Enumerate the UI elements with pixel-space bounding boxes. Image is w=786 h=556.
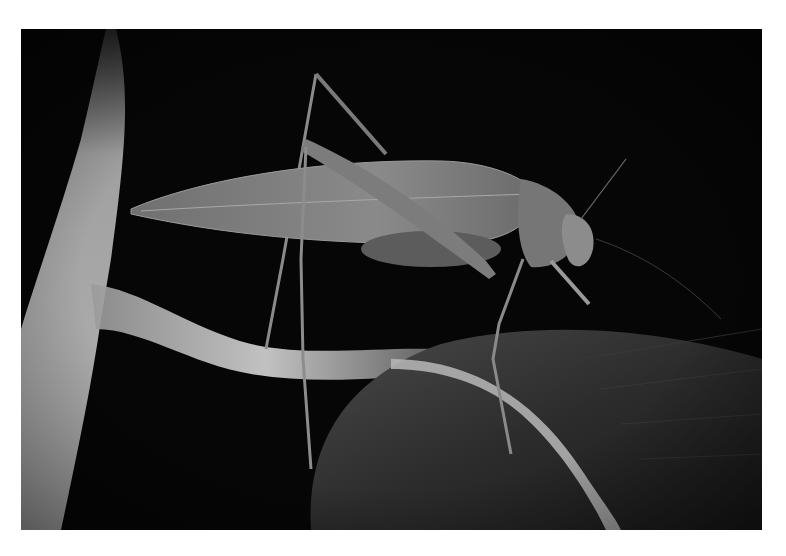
photo-scene: [21, 29, 762, 530]
vignette-overlay: [21, 29, 762, 530]
photograph: Katydid perched on a leaf stem at night: [21, 29, 762, 530]
